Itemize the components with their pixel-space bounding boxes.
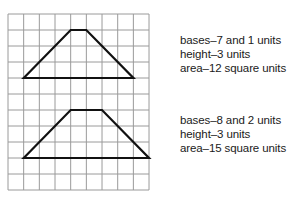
trapezoid-1-label: bases–7 and 1 units height–3 units area–…: [180, 33, 286, 75]
grid-diagram: [0, 0, 287, 205]
trapezoid-2-height: height–3 units: [180, 127, 286, 141]
trapezoid-1-height: height–3 units: [180, 47, 286, 61]
trapezoid-1: [24, 30, 134, 78]
trapezoid-1-bases: bases–7 and 1 units: [180, 33, 286, 47]
trapezoid-2-area: area–15 square units: [180, 141, 286, 155]
grid-lines: [8, 14, 149, 190]
trapezoid-2-label: bases–8 and 2 units height–3 units area–…: [180, 113, 286, 155]
trapezoid-2-bases: bases–8 and 2 units: [180, 113, 286, 127]
trapezoid-1-area: area–12 square units: [180, 61, 286, 75]
